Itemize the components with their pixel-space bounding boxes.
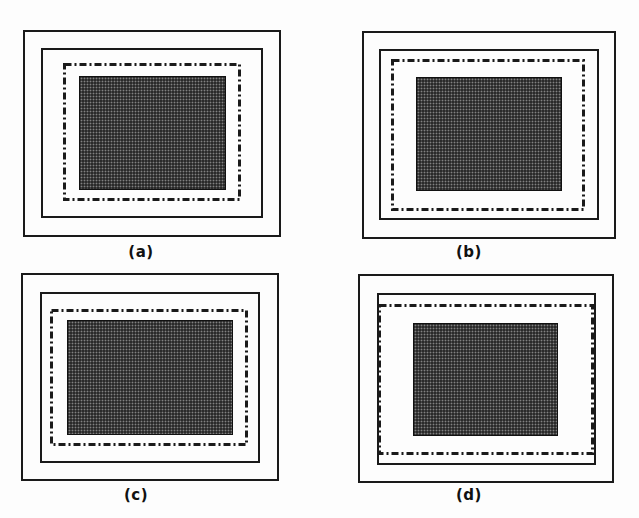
panel-b-dashdot-rect bbox=[391, 59, 585, 211]
panel-d-label: (d) bbox=[449, 486, 489, 504]
panel-a-dashdot-rect bbox=[63, 63, 241, 201]
panel-d-dashdot-rect bbox=[378, 304, 594, 455]
panel-b-label: (b) bbox=[449, 243, 489, 261]
panel-c-label: (c) bbox=[116, 486, 156, 504]
panel-c-dashdot-rect bbox=[50, 309, 248, 446]
panel-a-label: (a) bbox=[121, 243, 161, 261]
